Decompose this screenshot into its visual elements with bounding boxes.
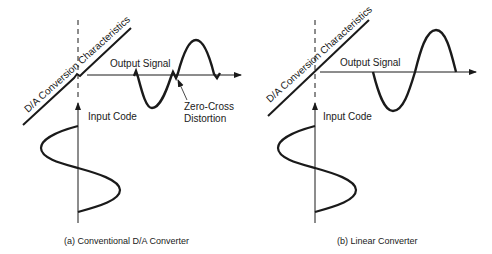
panel-b-caption: (b) Linear Converter [337,236,418,246]
panel-b-characteristic-label: D/A Conversion Characteristics [264,4,374,105]
panel-b-input-label: Input Code [323,111,372,122]
panel-b-input-signal [278,126,356,212]
panel-a-distortion-pointer [178,80,187,100]
panel-a-input-signal [41,126,120,212]
diagram-canvas: D/A Conversion Characteristics Output Si… [0,0,492,254]
panel-b-output-signal [373,30,456,111]
panel-a-input-label: Input Code [88,111,137,122]
panel-a-distortion-label-2: Distortion [184,113,226,124]
panel-b-linear: D/A Conversion Characteristics Output Si… [264,4,476,246]
panel-a-conventional: D/A Conversion Characteristics Output Si… [22,14,241,246]
panel-b-characteristic-line [268,20,369,116]
panel-a-distortion-label-1: Zero-Cross [184,101,234,112]
panel-a-caption: (a) Conventional D/A Converter [64,236,189,246]
panel-a-output-signal [134,40,220,108]
panel-b-output-label: Output Signal [340,57,401,68]
panel-a-output-label: Output Signal [110,58,171,69]
